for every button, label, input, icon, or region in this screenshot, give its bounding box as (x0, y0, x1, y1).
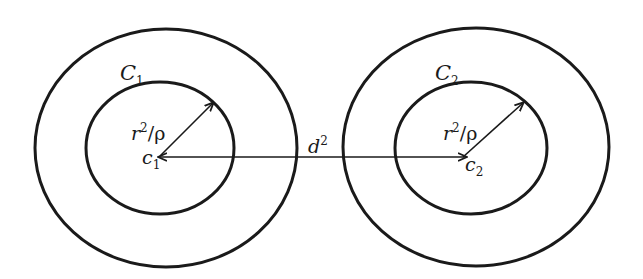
radius-label-c2: r2/ρ (443, 124, 477, 143)
outer-label-c1-base: C (120, 61, 136, 85)
outer-circle-c2 (343, 28, 609, 266)
outer-label-c2: C2 (435, 63, 459, 84)
outer-label-c2-sub: 2 (451, 74, 459, 88)
center-label-c1-base: c (142, 146, 153, 168)
radius-label-c1-rho: ρ (154, 122, 165, 144)
radius-label-c2-base: r (443, 122, 452, 144)
radius-label-c1: r2/ρ (131, 124, 165, 143)
radius-arrow-c1 (160, 103, 213, 156)
center-label-c1-sub: 1 (153, 158, 161, 172)
outer-label-c2-base: C (435, 61, 451, 85)
outer-label-c1: C1 (120, 63, 144, 84)
distance-label-base: d (308, 135, 320, 157)
center-label-c2-base: c (465, 153, 476, 175)
outer-label-c1-sub: 1 (136, 74, 144, 88)
center-label-c2: c2 (465, 155, 483, 174)
inner-circle-c2 (395, 82, 547, 214)
radius-label-c1-sup: 2 (140, 121, 148, 135)
outer-circle-c1 (35, 29, 297, 267)
center-label-c1: c1 (142, 148, 160, 167)
radius-label-c1-base: r (131, 122, 140, 144)
radius-label-c2-sup: 2 (452, 121, 460, 135)
distance-label: d2 (308, 137, 328, 156)
radius-label-c2-rho: ρ (466, 122, 477, 144)
distance-label-sup: 2 (320, 134, 328, 148)
center-label-c2-sub: 2 (476, 165, 484, 179)
